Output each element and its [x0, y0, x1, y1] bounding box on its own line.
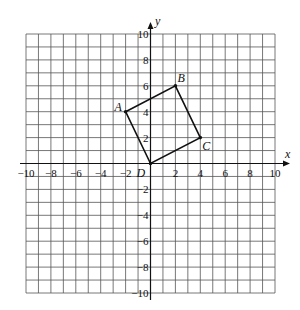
y-tick-label: 10	[138, 28, 150, 40]
y-tick-label: 2	[143, 132, 149, 144]
x-tick-label: −8	[45, 167, 57, 179]
x-tick-label: −2	[120, 167, 132, 179]
x-tick-label: −6	[70, 167, 82, 179]
x-axis-arrow-icon	[283, 161, 290, 167]
y-tick-label: 6	[143, 80, 149, 92]
y-axis-label: y	[154, 14, 161, 28]
vertex-label-A: A	[114, 100, 123, 114]
vertex-label-C: C	[202, 139, 211, 153]
y-tick-label: −2	[137, 183, 149, 195]
y-tick-label: −4	[137, 209, 149, 221]
x-tick-label: −10	[17, 167, 35, 179]
x-tick-label: 10	[270, 167, 282, 179]
x-tick-label: 8	[247, 167, 253, 179]
x-axis-label: x	[284, 147, 291, 161]
x-tick-label: −4	[95, 167, 107, 179]
x-tick-label: 4	[198, 167, 204, 179]
vertex-label-D: D	[136, 166, 146, 180]
y-tick-label: 8	[143, 54, 149, 66]
y-tick-label: 4	[143, 106, 149, 118]
y-tick-label: −6	[137, 235, 149, 247]
vertex-point	[149, 162, 153, 166]
y-tick-label: −10	[131, 287, 149, 299]
vertex-point	[124, 110, 128, 114]
x-tick-label: 6	[222, 167, 228, 179]
y-tick-label: −8	[137, 261, 149, 273]
coordinate-grid: x y −10−8−6−4−2246810108642−2−4−6−8−10 A…	[0, 0, 300, 310]
x-tick-label: 2	[173, 167, 179, 179]
vertex-label-B: B	[177, 71, 185, 85]
